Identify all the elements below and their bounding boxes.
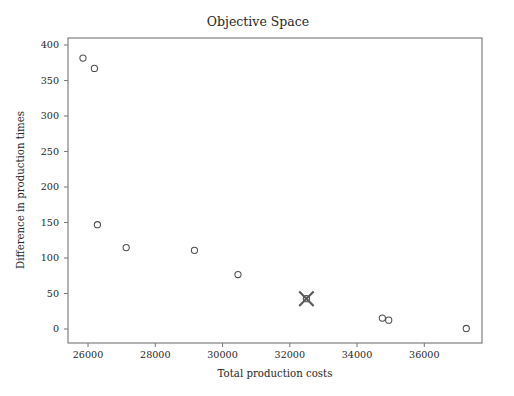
y-tick-label: 250 bbox=[41, 146, 59, 157]
x-tick-label: 32000 bbox=[275, 349, 306, 360]
y-tick-label: 200 bbox=[41, 181, 59, 192]
x-tick-label: 30000 bbox=[207, 349, 238, 360]
y-tick-label: 100 bbox=[41, 252, 59, 263]
x-tick-label: 34000 bbox=[342, 349, 373, 360]
objective-space-scatter-chart: Objective Space 26000 28000 30000 32000 … bbox=[0, 0, 514, 396]
y-tick-label: 50 bbox=[47, 288, 59, 299]
figure-container: Objective Space 26000 28000 30000 32000 … bbox=[0, 0, 514, 396]
y-axis-label: Difference in production times bbox=[15, 111, 26, 269]
chart-title: Objective Space bbox=[207, 14, 309, 29]
x-tick-label: 26000 bbox=[73, 349, 104, 360]
y-tick-label: 400 bbox=[41, 39, 59, 50]
y-tick-label: 0 bbox=[53, 323, 59, 334]
x-tick-label: 36000 bbox=[409, 349, 440, 360]
y-tick-label: 150 bbox=[41, 217, 59, 228]
x-axis-label: Total production costs bbox=[218, 368, 333, 379]
x-tick-label: 28000 bbox=[140, 349, 171, 360]
y-tick-label: 350 bbox=[41, 75, 59, 86]
plot-area-background bbox=[68, 38, 482, 343]
y-tick-label: 300 bbox=[41, 110, 59, 121]
